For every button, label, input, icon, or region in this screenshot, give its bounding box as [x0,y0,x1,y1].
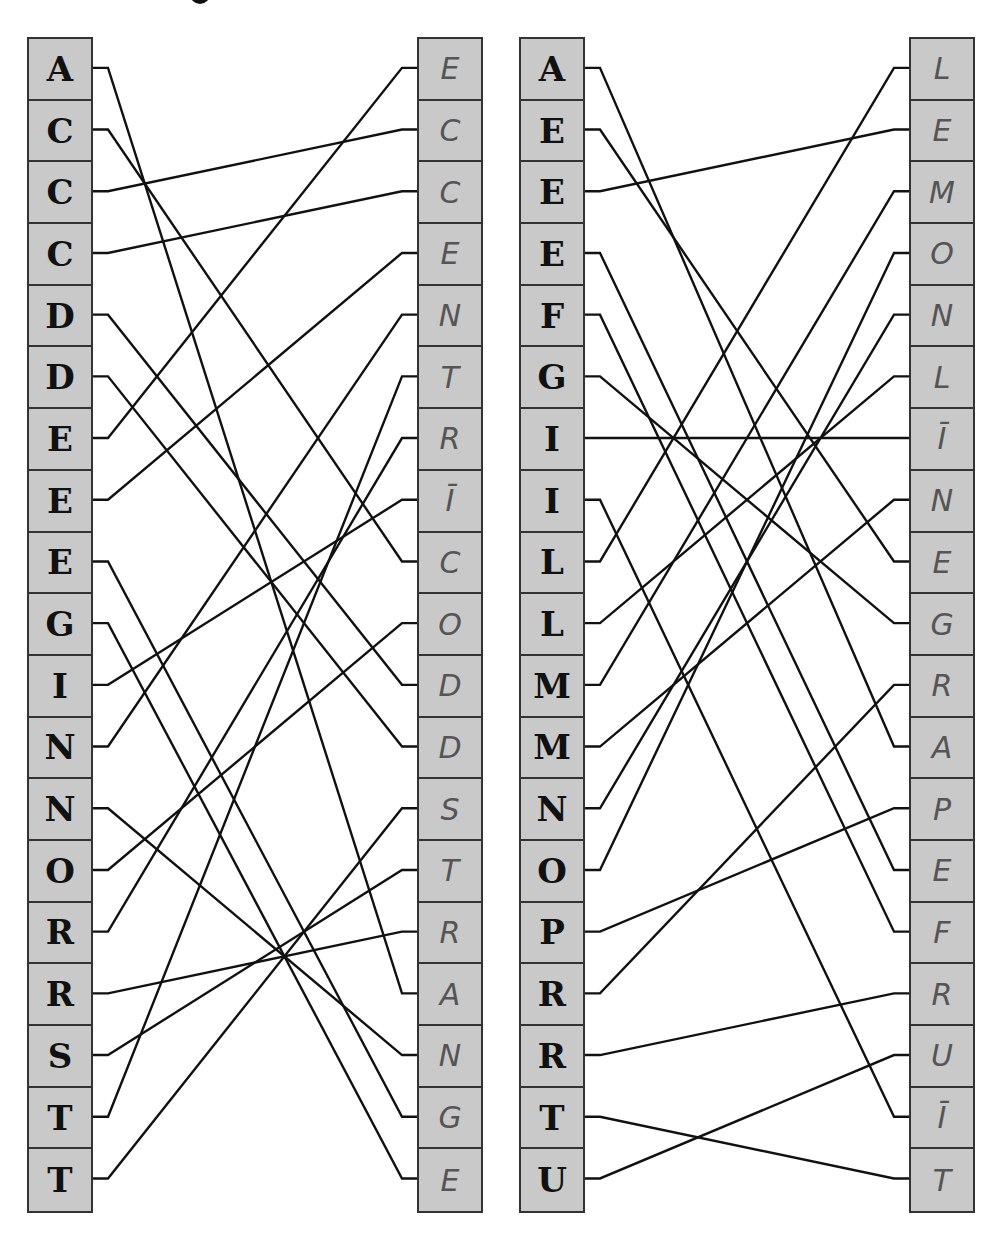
letter: T [47,1098,72,1138]
left-letter-cell: F [521,286,583,348]
connection-line [93,808,417,1178]
right-letter-cell: E [419,224,481,286]
left-letter-cell: G [521,347,583,409]
letter: P [539,912,565,952]
right-letter-cell: G [419,1088,481,1150]
right-letter-cell: A [419,964,481,1026]
right-letter-cell: P [911,779,973,841]
letter: L [934,360,951,395]
letter: R [932,977,953,1012]
letter: D [45,357,74,397]
letter: R [932,668,953,703]
left-letter-cell: G [29,594,91,656]
letter: S [48,1036,73,1076]
letter: T [47,1160,72,1200]
right-letter-cell: T [911,1149,973,1211]
letter: G [930,607,953,642]
right-letter-cell: S [419,779,481,841]
right-letter-cell: E [911,533,973,595]
letter: N [439,298,461,333]
letter: I [544,481,560,521]
right-letter-cell: N [911,471,973,533]
left-letter-cell: N [29,779,91,841]
letter: N [44,789,75,829]
letter: S [440,792,459,827]
letter: E [47,481,73,521]
matching-diagram: ACCCDDEEEGINNORRSTT ECCENTRĪCODDSTRANGE … [0,0,1008,1245]
connection-line [585,685,909,994]
letter: A [440,977,461,1012]
left-letter-cell: S [29,1026,91,1088]
left-letter-cell: L [521,533,583,595]
connection-line [93,623,417,1178]
left-letter-cell: I [521,409,583,471]
connection-line [93,808,417,1055]
letter: L [540,542,564,582]
connection-line [585,1117,909,1179]
left-letter-cell: N [29,718,91,780]
letter: G [438,1100,461,1135]
left-letter-cell: A [521,39,583,101]
letter: Ī [446,483,455,518]
letter: M [533,727,571,767]
right-letter-cell: Ī [911,1088,973,1150]
letter: M [929,175,955,210]
left-letter-cell: L [521,594,583,656]
left-letter-cell: R [521,964,583,1026]
letter: E [441,1163,460,1198]
right-letter-cell: Ī [911,409,973,471]
right-letter-cell: C [419,101,481,163]
left-letter-cell: O [29,841,91,903]
right-letter-cell: N [419,1026,481,1088]
connection-line [585,130,909,562]
letter: R [46,912,74,952]
letter: U [931,1038,953,1073]
letter: R [538,974,566,1014]
right-letter-cell: E [419,1149,481,1211]
right-letter-cell: L [911,347,973,409]
connection-line [93,191,417,253]
letter: N [439,1038,461,1073]
letter: T [539,1098,564,1138]
letter: G [45,604,74,644]
letter: G [537,357,566,397]
letter: O [930,236,954,271]
letter: A [539,49,565,89]
right-letter-cell: C [419,533,481,595]
right-letter-cell: R [911,964,973,1026]
left-letter-cell: T [521,1088,583,1150]
letter: O [438,607,462,642]
panel-1-printed-column: ACCCDDEEEGINNORRSTT [27,37,93,1213]
right-letter-cell: E [911,101,973,163]
letter: C [440,175,461,210]
panel-1-handwritten-column: ECCENTRĪCODDSTRANGE [417,37,483,1213]
letter: R [46,974,74,1014]
right-letter-cell: D [419,656,481,718]
letter: E [933,545,952,580]
connection-line [585,130,909,192]
left-letter-cell: I [29,656,91,718]
letter: A [932,730,953,765]
left-letter-cell: E [29,471,91,533]
connection-line [585,376,909,623]
letter: D [45,296,74,336]
left-letter-cell: R [29,964,91,1026]
letter: C [440,545,461,580]
left-letter-cell: E [521,101,583,163]
letter: I [52,666,68,706]
letter: C [46,172,73,212]
letter: A [47,49,73,89]
letter: E [539,111,565,151]
right-letter-cell: R [419,903,481,965]
letter: E [539,172,565,212]
letter: E [441,51,460,86]
letter: R [440,421,461,456]
right-letter-cell: T [419,347,481,409]
left-letter-cell: E [521,162,583,224]
left-letter-cell: P [521,903,583,965]
letter: P [933,792,951,827]
connection-line [585,68,909,747]
letter: N [931,298,953,333]
left-letter-cell: U [521,1149,583,1211]
right-letter-cell: M [911,162,973,224]
